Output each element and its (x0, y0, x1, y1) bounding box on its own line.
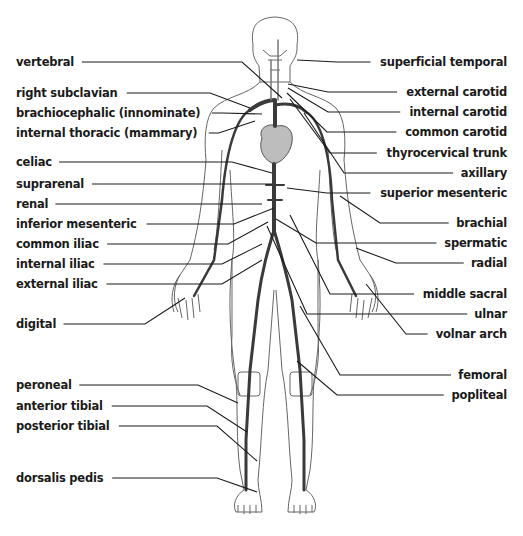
label-brachial: brachial (456, 216, 507, 230)
label-dorsalis-pedis: dorsalis pedis (16, 471, 103, 485)
leader-line (300, 306, 451, 375)
label-superficial-temporal: superficial temporal (380, 55, 507, 69)
leader-line (356, 248, 464, 263)
leader-line (119, 426, 257, 461)
label-renal: renal (16, 197, 48, 211)
label-peroneal: peroneal (16, 378, 72, 392)
leader-line (290, 99, 377, 153)
label-popliteal: popliteal (452, 388, 507, 402)
leader-line (304, 113, 453, 173)
label-femoral: femoral (458, 368, 507, 382)
leader-line (297, 361, 444, 395)
label-superior-mesenteric: superior mesenteric (380, 186, 507, 200)
leader-line (112, 406, 247, 432)
label-external-iliac: external iliac (16, 277, 98, 291)
label-digital: digital (16, 317, 56, 331)
label-celiac: celiac (16, 155, 52, 169)
label-inferior-mesenteric: inferior mesenteric (16, 217, 137, 231)
leader-line (146, 208, 274, 224)
label-brachiocephalic-innominate: brachiocephalic (innominate) (16, 106, 200, 120)
label-internal-carotid: internal carotid (409, 105, 507, 119)
leader-line (112, 478, 257, 492)
heart-icon (261, 125, 293, 164)
label-internal-thoracic-mammary: internal thoracic (mammary) (16, 126, 197, 140)
label-posterior-tibial: posterior tibial (16, 419, 110, 433)
leader-line (212, 113, 262, 114)
label-suprarenal: suprarenal (16, 177, 84, 191)
leader-line (209, 121, 255, 133)
artery-network (194, 40, 356, 490)
label-external-carotid: external carotid (406, 85, 507, 99)
label-right-subclavian: right subclavian (16, 86, 118, 100)
leader-line (297, 60, 370, 62)
label-middle-sacral: middle sacral (423, 287, 507, 301)
leader-line (64, 298, 185, 324)
label-thyrocervical-trunk: thyrocervical trunk (387, 146, 507, 160)
label-radial: radial (471, 256, 507, 270)
artery-diagram: vertebralright subclavianbrachiocephalic… (0, 0, 523, 536)
label-vertebral: vertebral (16, 55, 74, 69)
label-anterior-tibial: anterior tibial (16, 399, 103, 413)
label-internal-iliac: internal iliac (16, 257, 95, 271)
label-common-carotid: common carotid (405, 125, 507, 139)
leader-line (288, 84, 397, 92)
leader-line (340, 196, 449, 223)
label-ulnar: ulnar (474, 307, 507, 321)
label-spermatic: spermatic (444, 236, 507, 250)
leader-line (287, 188, 370, 193)
label-common-iliac: common iliac (16, 237, 99, 251)
leader-line (79, 385, 238, 403)
leader-line (103, 244, 262, 264)
label-volnar-arch: volnar arch (436, 327, 507, 341)
label-axillary: axillary (461, 166, 507, 180)
leader-line (59, 162, 272, 173)
